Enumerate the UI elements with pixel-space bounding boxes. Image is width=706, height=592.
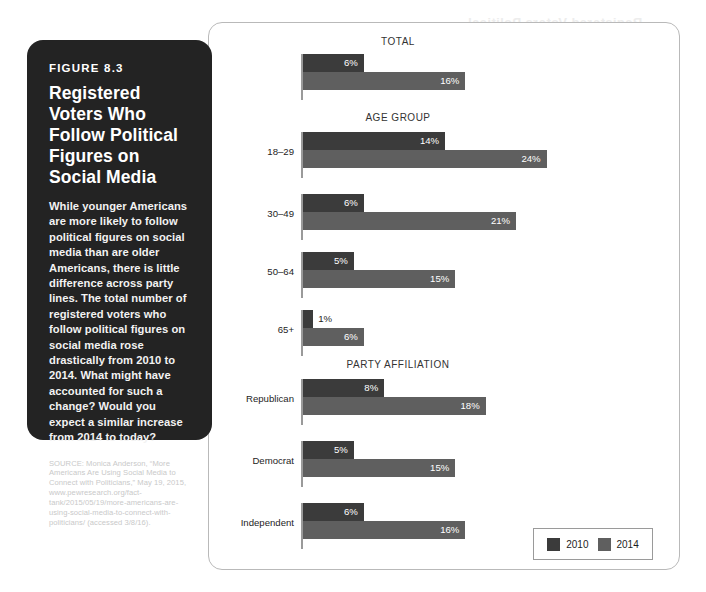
legend-item-2010: 2010 [547, 538, 588, 551]
bar-value-label: 18% [460, 397, 479, 415]
category-label: Democrat [208, 455, 294, 466]
bar-value-label: 15% [430, 459, 449, 477]
bar-value-label: 1% [318, 310, 332, 328]
category-label: 65+ [208, 324, 294, 335]
bar-value-label: 6% [344, 194, 358, 212]
category-label: Independent [208, 517, 294, 528]
legend-label-2010: 2010 [566, 539, 588, 550]
figure-title: Registered Voters Who Follow Political F… [49, 83, 192, 188]
bar-2010: 8% [303, 379, 384, 397]
bar-2014: 21% [303, 212, 516, 230]
chart-row: Republican8%18% [208, 379, 680, 425]
bar-chart: TOTAL6%16%AGE GROUP18–2914%24%30–496%21%… [208, 22, 680, 570]
bar-2010: 5% [303, 252, 354, 270]
bar-value-label: 6% [344, 54, 358, 72]
bar-value-label: 16% [440, 72, 459, 90]
figure-body-text: While younger Americans are more likely … [49, 199, 192, 446]
legend-swatch-2010 [547, 538, 560, 551]
chart-row: 6%16% [208, 54, 680, 100]
bar-2014: 18% [303, 397, 486, 415]
section-title-age-group: AGE GROUP [208, 112, 588, 123]
bar-2014: 16% [303, 72, 465, 90]
legend-item-2014: 2014 [598, 538, 639, 551]
chart-row: 65+1%6% [208, 310, 680, 356]
figure-number: FIGURE 8.3 [49, 62, 192, 74]
bar-value-label: 15% [430, 270, 449, 288]
bar-value-label: 24% [521, 150, 540, 168]
bar-2014: 15% [303, 270, 455, 288]
chart-row: 18–2914%24% [208, 132, 680, 178]
chart-legend: 2010 2014 [533, 528, 653, 560]
bar-value-label: 16% [440, 521, 459, 539]
bar-2010: 5% [303, 441, 354, 459]
chart-row: 30–496%21% [208, 194, 680, 240]
category-label: 50–64 [208, 266, 294, 277]
bar-2014: 24% [303, 150, 547, 168]
bar-2014: 6% [303, 328, 364, 346]
bar-2010: 6% [303, 503, 364, 521]
category-label: Republican [208, 393, 294, 404]
category-label: 18–29 [208, 146, 294, 157]
bar-2010: 6% [303, 194, 364, 212]
bar-value-label: 5% [334, 441, 348, 459]
chart-row: Democrat5%15% [208, 441, 680, 487]
bar-2010: 6% [303, 54, 364, 72]
bar-value-label: 21% [491, 212, 510, 230]
figure-caption-panel: FIGURE 8.3 Registered Voters Who Follow … [27, 40, 212, 440]
section-title-total: TOTAL [208, 36, 588, 47]
bar-value-label: 6% [344, 328, 358, 346]
figure-source-citation: SOURCE: Monica Anderson, “More Americans… [49, 459, 192, 528]
bar-value-label: 8% [364, 379, 378, 397]
category-label: 30–49 [208, 208, 294, 219]
legend-label-2014: 2014 [617, 539, 639, 550]
bar-value-label: 14% [420, 132, 439, 150]
bar-2014: 15% [303, 459, 455, 477]
chart-row: 50–645%15% [208, 252, 680, 298]
bar-value-label: 6% [344, 503, 358, 521]
bar-2010: 1% [303, 310, 313, 328]
bar-2010: 14% [303, 132, 445, 150]
bar-value-label: 5% [334, 252, 348, 270]
legend-swatch-2014 [598, 538, 611, 551]
section-title-party-affiliation: PARTY AFFILIATION [208, 359, 588, 370]
bar-2014: 16% [303, 521, 465, 539]
